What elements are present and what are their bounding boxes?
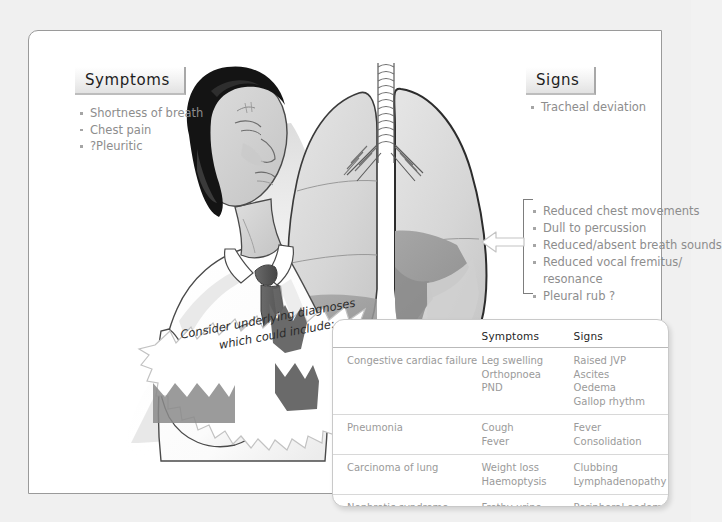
pointer-arrow-icon — [481, 229, 525, 255]
cell-line: Clubbing — [574, 461, 668, 475]
cell-condition: Carcinoma of lung — [333, 455, 482, 495]
cell-line: Gallop rhythm — [574, 395, 668, 409]
finding-item: Reduced/absent breath sounds — [532, 237, 722, 254]
table-row: PneumoniaCoughFeverFeverConsolidation — [333, 415, 668, 455]
cell-line: Orthopnoea — [482, 368, 574, 382]
finding-item: Reduced vocal fremitus/ — [532, 254, 722, 271]
cell-line: Cough — [482, 421, 574, 435]
finding-item: Pleural rub ? — [532, 288, 722, 305]
effusion-findings-list: Reduced chest movements Dull to percussi… — [532, 203, 722, 305]
table-body: Congestive cardiac failureLeg swellingOr… — [333, 348, 668, 508]
diagnoses-card: Symptoms Signs Congestive cardiac failur… — [332, 319, 669, 507]
cell-line: Peripheral oedema — [574, 501, 668, 507]
table-row: Nephrotic syndromeFrothy urineLeg swelli… — [333, 495, 668, 508]
cell-symptoms: Leg swellingOrthopnoeaPND — [482, 348, 574, 415]
cell-condition: Nephrotic syndrome — [333, 495, 482, 508]
figure-shadow — [124, 123, 322, 461]
symptoms-list: Shortness of breath Chest pain ?Pleuriti… — [79, 105, 203, 155]
cell-line: Leg swelling — [482, 354, 574, 368]
finding-item: Reduced chest movements — [532, 203, 722, 220]
symptom-item: Chest pain — [79, 122, 203, 139]
table-row: Congestive cardiac failureLeg swellingOr… — [333, 348, 668, 415]
cell-line: Raised JVP — [574, 354, 668, 368]
cell-line: PND — [482, 381, 574, 395]
signs-list: Tracheal deviation — [530, 99, 646, 116]
symptom-item: Shortness of breath — [79, 105, 203, 122]
signs-header: Signs — [526, 67, 596, 95]
cell-signs: Peripheral oedemaProteinuria — [574, 495, 668, 508]
cell-symptoms: CoughFever — [482, 415, 574, 455]
trachea — [344, 63, 423, 181]
symptoms-header: Symptoms — [75, 67, 186, 95]
table-header-row: Symptoms Signs — [333, 320, 668, 348]
symptom-item: ?Pleuritic — [79, 138, 203, 155]
col-header-condition — [333, 320, 482, 348]
cell-symptoms: Frothy urineLeg swelling — [482, 495, 574, 508]
col-header-signs: Signs — [574, 320, 668, 348]
cell-condition: Pneumonia — [333, 415, 482, 455]
table-head: Symptoms Signs — [333, 320, 668, 348]
cell-line: Fever — [482, 435, 574, 449]
cell-condition: Congestive cardiac failure — [333, 348, 482, 415]
cell-line: Frothy urine — [482, 501, 574, 507]
cell-line: Consolidation — [574, 435, 668, 449]
col-header-symptoms: Symptoms — [482, 320, 574, 348]
cell-line: Oedema — [574, 381, 668, 395]
cell-line: Weight loss — [482, 461, 574, 475]
cell-signs: ClubbingLymphadenopathy — [574, 455, 668, 495]
cell-signs: FeverConsolidation — [574, 415, 668, 455]
finding-item-continuation: resonance — [532, 271, 722, 288]
symptoms-header-label: Symptoms — [85, 71, 170, 89]
cell-line: Lymphadenopathy — [574, 475, 668, 489]
signs-header-label: Signs — [536, 71, 580, 89]
finding-item: Dull to percussion — [532, 220, 722, 237]
page-panel: Symptoms Shortness of breath Chest pain … — [28, 30, 662, 494]
diagnoses-table: Symptoms Signs Congestive cardiac failur… — [333, 320, 668, 507]
cell-signs: Raised JVPAscitesOedemaGallop rhythm — [574, 348, 668, 415]
table-row: Carcinoma of lungWeight lossHaemoptysisC… — [333, 455, 668, 495]
cell-line: Haemoptysis — [482, 475, 574, 489]
cell-symptoms: Weight lossHaemoptysis — [482, 455, 574, 495]
cell-line: Fever — [574, 421, 668, 435]
cell-line: Ascites — [574, 368, 668, 382]
sign-item: Tracheal deviation — [530, 99, 646, 116]
